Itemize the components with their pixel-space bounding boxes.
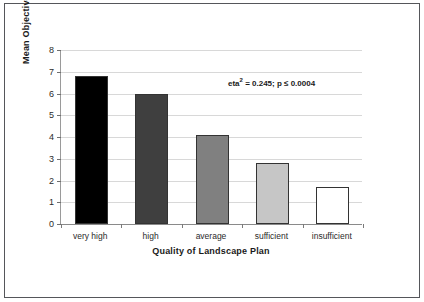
y-tick-mark — [57, 50, 61, 51]
y-tick-mark — [57, 181, 61, 182]
x-tick-label-insufficient: insufficient — [302, 231, 362, 241]
gridline-y-0 — [61, 224, 362, 225]
bar-insufficient — [316, 187, 349, 224]
x-tick-mark — [242, 224, 243, 228]
y-tick-label: 7 — [28, 68, 54, 77]
y-tick-mark — [57, 94, 61, 95]
x-tick-label-very-high: very high — [60, 231, 120, 241]
y-tick-label: 0 — [28, 220, 54, 229]
x-tick-mark — [61, 224, 62, 228]
y-tick-mark — [57, 115, 61, 116]
y-tick-label: 2 — [28, 177, 54, 186]
bar-sufficient — [256, 163, 289, 224]
gridline-y-7 — [61, 72, 362, 73]
bar-high — [135, 94, 168, 225]
x-tick-mark — [182, 224, 183, 228]
y-tick-label: 5 — [28, 111, 54, 120]
y-tick-label: 1 — [28, 198, 54, 207]
x-tick-mark — [303, 224, 304, 228]
bar-very-high — [75, 76, 108, 224]
y-tick-label: 8 — [28, 46, 54, 55]
y-tick-mark — [57, 202, 61, 203]
x-tick-label-high: high — [120, 231, 180, 241]
plot-area — [60, 50, 362, 224]
y-tick-label: 3 — [28, 155, 54, 164]
y-tick-mark — [57, 137, 61, 138]
y-tick-label: 6 — [28, 90, 54, 99]
gridline-y-8 — [61, 50, 362, 51]
bar-average — [196, 135, 229, 224]
x-tick-label-average: average — [181, 231, 241, 241]
y-tick-mark — [57, 72, 61, 73]
x-tick-mark — [363, 224, 364, 228]
x-tick-mark — [121, 224, 122, 228]
x-tick-label-sufficient: sufficient — [241, 231, 301, 241]
x-axis-title: Quality of Landscape Plan — [60, 246, 362, 256]
y-tick-mark — [57, 159, 61, 160]
chart-figure: Mean Objectives Quality of Landscape Pla… — [0, 0, 424, 302]
y-tick-label: 4 — [28, 133, 54, 142]
